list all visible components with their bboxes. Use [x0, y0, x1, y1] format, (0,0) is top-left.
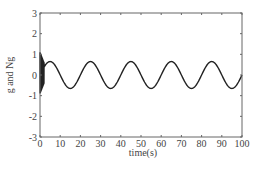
y-tick-label: 0: [32, 70, 37, 81]
series-line: [40, 52, 242, 93]
plot-area: [40, 52, 242, 93]
y-tick-label: 2: [32, 28, 37, 39]
x-axis-label: time(s): [129, 147, 157, 159]
x-tick-label: 60: [156, 138, 166, 149]
x-tick-label: 70: [176, 138, 186, 149]
y-tick-label: -3: [29, 132, 37, 143]
y-tick-label: -1: [29, 90, 37, 101]
y-tick-label: -2: [29, 111, 37, 122]
x-tick-label: 90: [217, 138, 227, 149]
y-axis-label: g and Ng: [4, 57, 15, 94]
x-tick-label: 20: [75, 138, 85, 149]
x-tick-label: 10: [55, 138, 65, 149]
line-chart: 0102030405060708090100-3-2-10123 time(s)…: [0, 0, 264, 171]
x-tick-label: 30: [96, 138, 106, 149]
y-tick-label: 1: [32, 49, 37, 60]
x-tick-label: 0: [38, 138, 43, 149]
y-tick-label: 3: [32, 8, 37, 19]
x-tick-label: 40: [116, 138, 126, 149]
x-tick-label: 100: [235, 138, 250, 149]
x-tick-label: 80: [197, 138, 207, 149]
